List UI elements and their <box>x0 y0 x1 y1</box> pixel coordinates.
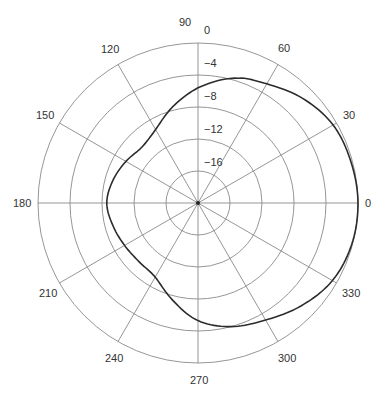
angle-label-60: 60 <box>278 42 290 54</box>
angle-label-150: 150 <box>36 109 54 121</box>
grid-spoke <box>118 64 198 203</box>
grid-spoke <box>59 123 198 203</box>
radial-label-minus12: −12 <box>204 123 223 135</box>
radial-label-minus4: −4 <box>204 57 217 69</box>
grid-spoke <box>59 203 198 283</box>
angle-label-330: 330 <box>342 287 360 299</box>
radial-label-0: 0 <box>204 24 210 36</box>
angle-label-90: 90 <box>179 16 191 28</box>
angle-label-270: 270 <box>190 374 208 386</box>
radial-label-minus8: −8 <box>204 90 217 102</box>
angle-label-300: 300 <box>278 352 296 364</box>
angle-label-0: 0 <box>365 197 371 209</box>
radiation-pattern-curve <box>107 78 358 327</box>
angle-label-240: 240 <box>105 352 123 364</box>
radial-label-minus16: −16 <box>204 156 223 168</box>
angle-label-120: 120 <box>101 43 119 55</box>
chart-center-point <box>196 201 200 205</box>
grid-spoke <box>198 203 337 283</box>
angle-label-180: 180 <box>13 197 31 209</box>
angle-label-210: 210 <box>39 287 57 299</box>
angle-label-30: 30 <box>343 109 355 121</box>
grid-spoke <box>118 203 198 342</box>
polar-chart: 0 30 60 90 120 150 180 210 240 270 300 3… <box>0 0 388 401</box>
